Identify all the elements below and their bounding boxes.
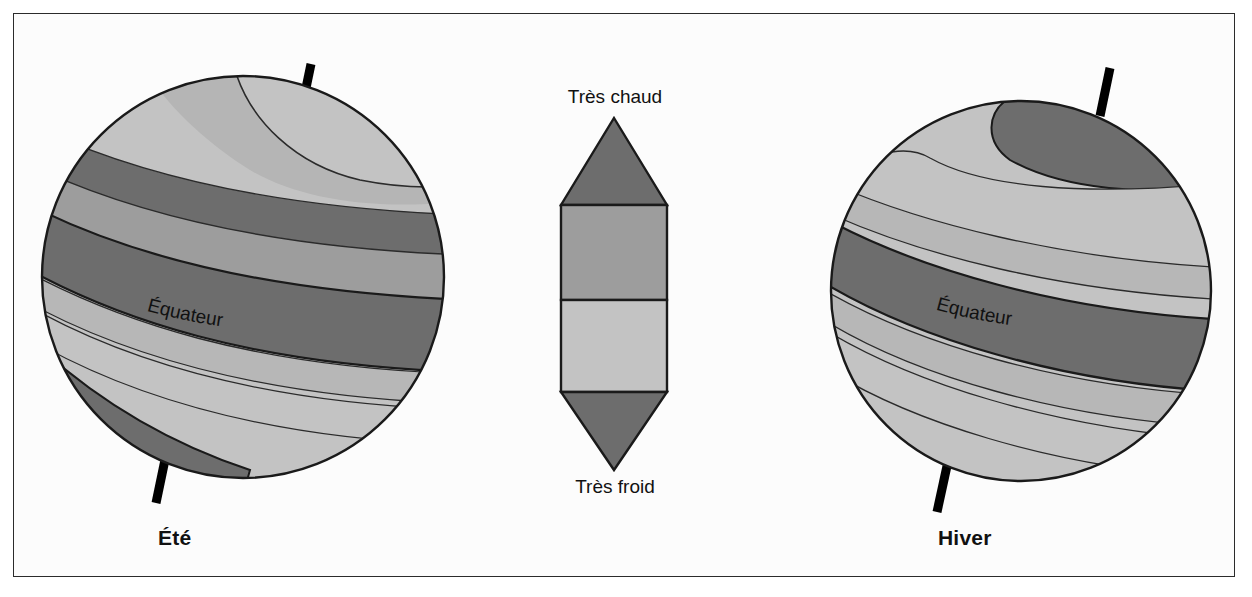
scale-bottom-label: Très froid: [535, 476, 695, 498]
figure-root: Équateur: [0, 0, 1252, 597]
globe-caption-ete: Été: [158, 526, 191, 550]
scale-segment-light: [561, 300, 667, 392]
scale-segment-triangle-down: [561, 392, 667, 470]
scale-top-label: Très chaud: [535, 86, 695, 108]
globe-hiver: Équateur: [820, 68, 1240, 512]
globe-ete: Équateur: [18, 60, 472, 512]
scale-segment-triangle-up: [561, 118, 667, 205]
globe-caption-hiver: Hiver: [938, 526, 992, 550]
axis-north-pole-hiver: [1100, 68, 1110, 116]
scale-segment-medium: [561, 205, 667, 300]
temperature-scale: [561, 118, 667, 470]
axis-south-pole-hiver: [937, 466, 947, 512]
